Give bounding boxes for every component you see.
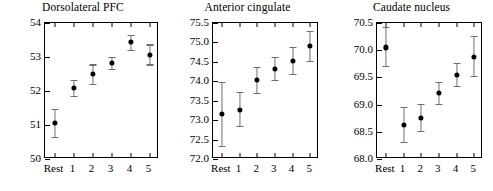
error-bar-cap-upper [382, 27, 389, 28]
plot-area [44, 22, 158, 158]
x-axis-tick-mark-top [310, 23, 311, 27]
error-bar-cap-upper [271, 57, 278, 58]
y-axis-tick-mark [377, 77, 382, 78]
x-axis-tick-label: 1 [236, 162, 242, 174]
error-bar-cap-lower [218, 146, 225, 147]
error-bar-cap-lower [307, 61, 314, 62]
x-axis-tick-label: 2 [417, 162, 423, 174]
x-axis-tick-mark-top [92, 23, 93, 27]
x-axis-tick-mark [474, 153, 475, 157]
figure-three-panel-rcbf: Dorsolateral PFC5051525354Relative rCBFR… [0, 0, 493, 191]
x-axis-tick-mark [274, 153, 275, 157]
y-axis-tick-mark [213, 81, 218, 82]
error-bar-cap-lower [236, 126, 243, 127]
error-bar-cap-lower [289, 74, 296, 75]
y-axis-tick-label: 75.5 [179, 16, 209, 28]
y-axis-tick-mark [377, 105, 382, 106]
x-axis-tick-label: 3 [108, 162, 114, 174]
data-point-marker [436, 90, 441, 95]
x-axis-tick-mark [92, 153, 93, 157]
chart-panel: Dorsolateral PFC5051525354Relative rCBFR… [0, 0, 166, 191]
error-bar-cap-upper [418, 104, 425, 105]
data-point-marker [71, 86, 76, 91]
chart-panel: Caudate nucleus68.068.569.069.570.070.5R… [330, 0, 493, 191]
error-bar-cap-upper [307, 31, 314, 32]
x-axis-tick-mark [73, 153, 74, 157]
x-axis-tick-mark [456, 153, 457, 157]
y-axis-tick-label: 54 [19, 16, 41, 28]
plot-area [376, 22, 482, 158]
x-axis-tick-mark-top [239, 23, 240, 27]
data-point-marker [128, 39, 133, 44]
x-axis-tick-mark-top [257, 23, 258, 27]
error-bar-cap-lower [146, 64, 153, 65]
data-point-marker [401, 122, 406, 127]
x-axis-tick-mark [221, 153, 222, 157]
y-axis-tick-label: 73.0 [179, 113, 209, 125]
x-axis-tick-label: 2 [253, 162, 259, 174]
y-axis-tick-label: 74.5 [179, 55, 209, 67]
data-point-marker [272, 67, 277, 72]
y-axis-tick-mark [45, 91, 50, 92]
data-point-marker [255, 77, 260, 82]
error-bar-cap-upper [146, 44, 153, 45]
error-bar-cap-upper [453, 63, 460, 64]
y-axis-tick-mark [377, 159, 382, 160]
panel-title: Caudate nucleus [330, 1, 493, 13]
error-bar-cap-upper [236, 92, 243, 93]
y-axis-tick-mark [213, 42, 218, 43]
y-axis-tick-label: 53 [19, 50, 41, 62]
y-axis-tick-mark [213, 101, 218, 102]
error-bar-cap-upper [218, 82, 225, 83]
y-axis-tick-mark [213, 140, 218, 141]
y-axis-tick-mark [213, 23, 218, 24]
x-axis-tick-mark-top [130, 23, 131, 27]
y-axis-tick-label: 50 [19, 152, 41, 164]
y-axis-tick-label: 70.5 [343, 16, 373, 28]
y-axis-tick-label: 74.0 [179, 74, 209, 86]
y-axis-tick-label: 69.5 [343, 70, 373, 82]
y-axis-tick-label: 51 [19, 118, 41, 130]
error-bar-cap-lower [271, 80, 278, 81]
data-point-marker [219, 111, 224, 116]
y-axis-tick-mark [45, 23, 50, 24]
error-bar-cap-upper [51, 109, 58, 110]
y-axis-tick-label: 70.0 [343, 43, 373, 55]
data-point-marker [52, 120, 57, 125]
y-axis-tick-label: 73.5 [179, 94, 209, 106]
error-bar-cap-lower [453, 86, 460, 87]
x-axis-tick-label: 5 [146, 162, 152, 174]
data-point-marker [237, 107, 242, 112]
x-axis-tick-mark [257, 153, 258, 157]
data-point-marker [472, 54, 477, 59]
y-axis-tick-mark [45, 57, 50, 58]
error-bar-cap-lower [418, 131, 425, 132]
x-axis-tick-mark [130, 153, 131, 157]
x-axis-tick-label: 1 [70, 162, 76, 174]
data-point-marker [308, 43, 313, 48]
y-axis-tick-label: 72.0 [179, 152, 209, 164]
y-axis-tick-mark [213, 159, 218, 160]
data-point-marker [290, 58, 295, 63]
y-axis-tick-mark [45, 125, 50, 126]
x-axis-tick-label: Rest [375, 162, 395, 174]
error-bar-cap-upper [89, 64, 96, 65]
y-axis-tick-label: 69.0 [343, 98, 373, 110]
data-point-marker [419, 115, 424, 120]
error-bar-cap-lower [127, 50, 134, 51]
x-axis-tick-mark [310, 153, 311, 157]
x-axis-tick-mark-top [111, 23, 112, 27]
x-axis-tick-mark-top [73, 23, 74, 27]
y-axis-tick-label: 52 [19, 84, 41, 96]
y-axis-tick-mark [377, 50, 382, 51]
x-axis-tick-mark [239, 153, 240, 157]
x-axis-tick-label: 4 [453, 162, 459, 174]
plot-area [212, 22, 318, 158]
error-bar-cap-lower [254, 93, 261, 94]
x-axis-tick-mark-top [403, 23, 404, 27]
error-bar-cap-upper [70, 80, 77, 81]
y-axis-tick-mark [213, 120, 218, 121]
x-axis-tick-mark-top [54, 23, 55, 27]
x-axis-tick-mark [421, 153, 422, 157]
error-bar-cap-upper [289, 47, 296, 48]
